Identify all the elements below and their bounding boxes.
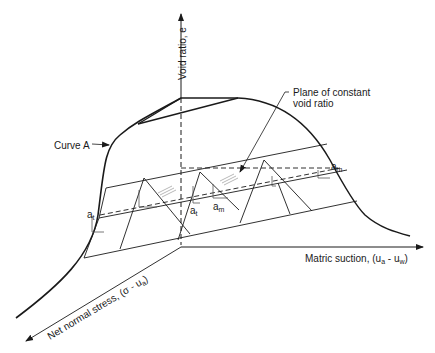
leaders <box>92 92 289 172</box>
plane-label-line1: Plane of constant <box>293 87 370 98</box>
curve-a <box>16 98 181 318</box>
constitutive-surface-diagram: Void ratio, e Curve A Plane of constant … <box>0 0 435 353</box>
a-t-label-mid: at <box>190 205 198 217</box>
axes <box>26 14 423 341</box>
top-edge-diag-1 <box>138 98 181 124</box>
matric-suction-label: Matric suction, (ua - uw) <box>305 253 408 265</box>
net-normal-stress-axis <box>26 247 181 341</box>
planes <box>84 144 357 258</box>
plane-label-line2: void ratio <box>293 98 334 109</box>
a-m-label-mid: am <box>213 201 225 213</box>
a-t-label-left: at <box>87 209 95 221</box>
top-edge-diag-2 <box>138 98 238 124</box>
void-ratio-label: Void ratio, e <box>177 27 188 80</box>
curve-right <box>238 98 410 236</box>
curve-a-label: Curve A <box>54 140 90 151</box>
curve-a-leader <box>92 144 109 145</box>
a-m-label-right: am <box>331 161 343 173</box>
slope-triangles <box>92 170 330 232</box>
net-normal-stress-label: Net normal stress, (σ - ua) <box>45 273 150 343</box>
